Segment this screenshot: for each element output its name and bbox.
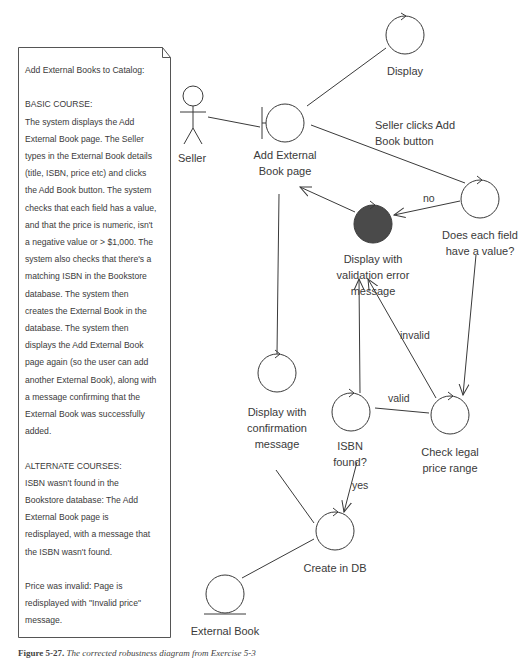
edge-field-to-price [463,255,476,395]
validation-error-label: Display with validation error message [323,251,423,299]
controller-validation-error-icon [354,201,392,243]
controller-check-price-icon [431,392,469,434]
yes-label: yes [352,477,368,493]
figure-number: Figure 5-27. [18,648,64,658]
check-price-label: Check legal price range [410,444,490,476]
edge-seller-boundary [208,117,260,127]
seller-clicks-label: Seller clicks Add Book button [375,117,455,149]
controller-isbn-found-icon [332,389,370,431]
edge-create-to-confirm [276,470,314,523]
external-book-label: External Book [178,623,272,639]
controller-confirmation-icon [258,350,296,392]
does-each-field-label: Does each field have a value? [430,227,529,259]
boundary-label: Add External Book page [243,147,327,179]
invalid-label: invalid [400,327,430,343]
edge-confirm-to-boundary [277,194,279,354]
edge-valid [375,408,429,413]
controller-does-each-field-icon [461,176,499,218]
create-in-db-label: Create in DB [295,560,375,576]
figure-caption-text: The corrected robustness diagram from Ex… [67,648,256,658]
figure-caption: Figure 5-27. The corrected robustness di… [18,648,256,658]
confirmation-label: Display with confirmation message [232,404,322,452]
controller-display-icon [386,13,424,54]
seller-actor-icon [180,86,206,144]
boundary-add-external-book-page-icon [262,104,304,142]
no-label: no [423,190,435,206]
edge-boundary-display [307,48,386,106]
valid-label: valid [388,390,410,406]
controller-create-in-db-icon [316,508,354,550]
seller-label: Seller [178,150,206,166]
entity-external-book-icon [204,575,246,614]
isbn-found-label: ISBN found? [325,438,375,470]
display-label: Display [385,63,425,79]
edge-error-to-boundary [300,187,355,212]
